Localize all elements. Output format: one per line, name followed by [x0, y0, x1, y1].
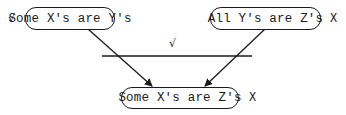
conclusion-node: Some X's are Z's: [121, 87, 239, 109]
premise-2-x-mark: X: [330, 13, 337, 25]
premise-1-node: Some X's are Y's: [25, 7, 115, 30]
conclusion-x-mark: X: [249, 92, 256, 104]
premise-2-node: All Y's are Z's: [210, 7, 321, 30]
inference-check-icon: √: [169, 38, 176, 50]
left-arrow: [88, 29, 152, 86]
premise-2-text: All Y's are Z's: [208, 12, 324, 26]
right-arrow: [205, 29, 265, 86]
conclusion-text: Some X's are Z's: [118, 91, 241, 105]
premise-1-text: Some X's are Y's: [8, 12, 131, 26]
